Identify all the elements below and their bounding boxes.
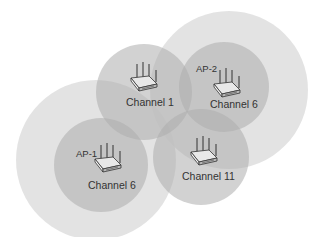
ap-name-label: AP-2 xyxy=(196,63,217,74)
channel-label: Channel 6 xyxy=(88,179,136,191)
channel-label: Channel 6 xyxy=(210,98,258,110)
channel-label: Channel 11 xyxy=(182,170,235,182)
ap-name-label: AP-1 xyxy=(76,148,97,159)
channel-label: Channel 1 xyxy=(126,96,174,108)
channel-coverage-diagram: Channel 1 AP-2 Channel 6 AP-1 Channel 6 … xyxy=(0,0,321,237)
